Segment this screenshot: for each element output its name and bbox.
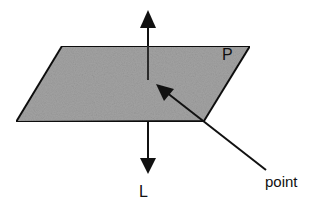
point-label: point — [265, 174, 298, 189]
plane-p — [16, 46, 250, 122]
line-label: L — [139, 184, 148, 200]
arrow-up-icon — [140, 10, 156, 28]
arrow-down-icon — [140, 158, 156, 174]
line-l-lower — [140, 122, 156, 174]
plane-label: P — [222, 47, 233, 63]
